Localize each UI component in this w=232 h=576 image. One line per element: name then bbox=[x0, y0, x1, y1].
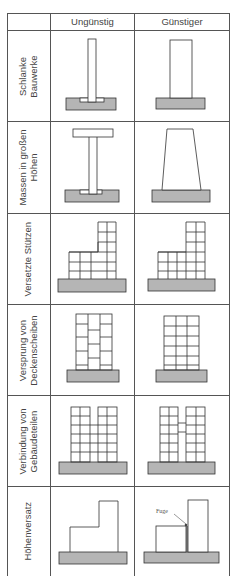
row2-unfavorable-drawing bbox=[65, 129, 119, 202]
row-label-line: Bauwerke bbox=[29, 55, 40, 97]
row-label-line: Gebäudeteilen bbox=[29, 408, 40, 474]
row1-unfavorable-drawing bbox=[66, 39, 116, 110]
row-label-line: Höhenversatz bbox=[23, 502, 34, 561]
row-label-building-connection: Verbindung vonGebäudeteilen bbox=[7, 396, 50, 486]
row4-unfavorable-drawing bbox=[67, 314, 119, 382]
column-header-favorable: Günstiger bbox=[135, 13, 229, 30]
row5-unfavorable-drawing bbox=[59, 407, 127, 474]
row6-unfavorable-drawing bbox=[59, 501, 127, 564]
row-label-offset-columns: Versetzte Stützen bbox=[7, 214, 50, 304]
row-label-line: Höhen bbox=[29, 129, 40, 205]
row-label-slab-offset: Versprung vonDeckenscheiben bbox=[7, 305, 50, 395]
row-label-line: Versetzte Stützen bbox=[23, 222, 34, 296]
row-label-slender-structures: SchlankeBauwerke bbox=[7, 31, 50, 121]
row1-favorable-drawing bbox=[156, 40, 205, 109]
row4-favorable-drawing bbox=[156, 316, 207, 382]
row-label-line: Deckenscheiben bbox=[29, 315, 40, 385]
row-label-height-offset: Höhenversatz bbox=[7, 487, 50, 576]
row2-favorable-drawing bbox=[152, 129, 210, 202]
row5-favorable-drawing bbox=[148, 407, 215, 474]
row3-favorable-drawing bbox=[148, 222, 215, 291]
row3-unfavorable-drawing bbox=[58, 222, 126, 292]
row-label-masses-at-height: Massen in großenHöhen bbox=[7, 122, 50, 213]
column-header-unfavorable: Ungünstig bbox=[51, 13, 134, 30]
joint-label: Fuge bbox=[156, 508, 168, 514]
